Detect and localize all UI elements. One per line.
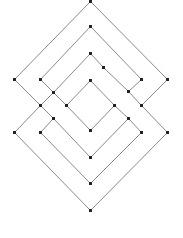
node-n17	[13, 131, 16, 134]
node-n22	[89, 156, 92, 159]
node-n19	[89, 129, 92, 132]
node-n23	[89, 182, 92, 185]
node-n16	[127, 117, 130, 120]
node-n13	[113, 104, 116, 107]
node-n8	[52, 91, 55, 94]
node-n1	[13, 78, 16, 81]
node-n11	[39, 104, 42, 107]
node-n3	[89, 25, 92, 28]
node-n10	[89, 79, 92, 82]
node-n20	[140, 131, 143, 134]
node-n7	[102, 66, 105, 69]
node-n12	[65, 104, 68, 107]
braided-diamond-graph	[0, 0, 183, 238]
node-n9	[127, 90, 130, 93]
node-n0	[89, 0, 92, 3]
node-n15	[52, 117, 55, 120]
node-n24	[89, 209, 92, 212]
diagram-canvas	[0, 0, 183, 238]
node-n6	[89, 52, 92, 55]
node-n2	[166, 78, 169, 81]
node-n14	[140, 104, 143, 107]
node-n5	[140, 78, 143, 81]
node-n18	[39, 131, 42, 134]
node-n4	[39, 78, 42, 81]
node-n21	[166, 131, 169, 134]
